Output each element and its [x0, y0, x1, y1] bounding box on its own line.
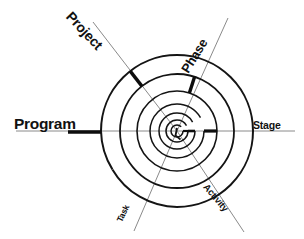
level-step-connectors — [68, 71, 217, 132]
axis-label-program: Program — [14, 116, 76, 132]
spiral-hierarchy-diagram: Program Stage Project Phase Task Activit… — [0, 0, 304, 239]
step-connector-phase — [189, 77, 194, 93]
step-connector-project — [130, 71, 142, 86]
axis-label-stage: Stage — [253, 120, 281, 131]
